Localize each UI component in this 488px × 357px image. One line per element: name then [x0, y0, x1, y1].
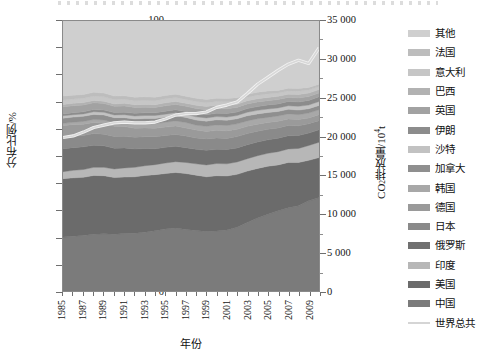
legend-item-label: 美国 [435, 279, 455, 290]
legend-item[interactable]: 德国 [408, 198, 486, 217]
x-axis-tick-mark [320, 292, 321, 296]
legend-item-label: 日本 [435, 221, 455, 232]
legend-item[interactable]: 巴西 [408, 82, 486, 101]
x-axis-tick-mark [114, 292, 115, 296]
x-axis-tick-label: 2007 [284, 300, 294, 320]
y-axis-right-tick-mark [320, 214, 326, 215]
legend-swatch-icon [408, 204, 430, 211]
x-axis-tick-label: 2003 [243, 300, 253, 320]
y-axis-right-tick-mark [320, 137, 326, 138]
y-axis-right-title-subscript: 2 [378, 180, 387, 184]
legend-item-label: 德国 [435, 202, 455, 213]
legend-item[interactable]: 韩国 [408, 178, 486, 197]
legend-item[interactable]: 美国 [408, 275, 486, 294]
legend-item-label: 巴西 [435, 86, 455, 97]
y-axis-right-tick-label: 20 000 [327, 132, 356, 142]
x-axis-title: 年份 [0, 335, 382, 351]
legend-item-label: 世界总共 [435, 318, 475, 329]
y-axis-left-title: 分布比例/% [6, 112, 18, 168]
legend-item-label: 加拿大 [435, 163, 465, 174]
y-axis-right-title-prefix: CO [375, 184, 387, 199]
legend-item[interactable]: 意大利 [408, 63, 486, 82]
x-axis-tick-label: 1987 [78, 300, 88, 320]
y-axis-right-tick-mark [320, 253, 326, 254]
legend-swatch-icon [408, 185, 430, 192]
legend-swatch-icon [408, 281, 430, 288]
x-axis-tick-mark [268, 292, 269, 296]
legend-item[interactable]: 加拿大 [408, 159, 486, 178]
legend-item[interactable]: 日本 [408, 217, 486, 236]
x-axis-tick-mark [93, 292, 94, 296]
legend-item-label: 韩国 [435, 183, 455, 194]
scan-artifact [58, 1, 438, 5]
legend-swatch-icon [408, 69, 430, 76]
x-axis-tick-mark [176, 292, 177, 296]
plot-area [62, 20, 320, 292]
area-band-其他 [63, 21, 319, 100]
legend-item-label: 沙特 [435, 144, 455, 155]
legend-item-label: 印度 [435, 260, 455, 271]
stacked-area-plot [63, 21, 319, 291]
x-axis-tick-mark [299, 292, 300, 296]
x-axis-tick-mark [227, 292, 228, 296]
x-axis-tick-label: 1995 [160, 300, 170, 320]
x-axis-tick-mark [279, 292, 280, 296]
x-axis-tick-mark [72, 292, 73, 296]
legend-item[interactable]: 伊朗 [408, 120, 486, 139]
legend-item[interactable]: 其他 [408, 24, 486, 43]
legend-swatch-icon [408, 127, 430, 134]
x-axis-tick-mark [310, 292, 311, 296]
legend-item[interactable]: 法国 [408, 43, 486, 62]
y-axis-right-title-suffix: t [375, 126, 387, 129]
legend: 其他法国意大利巴西英国伊朗沙特加拿大韩国德国日本俄罗斯印度美国中国世界总共 [408, 24, 486, 333]
y-axis-right-tick-label: 35 000 [327, 15, 356, 25]
x-axis-tick-mark [83, 292, 84, 296]
x-axis-tick-mark [289, 292, 290, 296]
y-axis-right-minor-tick [320, 156, 323, 157]
x-axis-tick-mark [206, 292, 207, 296]
y-axis-right-title-superscript: 4 [373, 129, 382, 133]
y-axis-right-tick-mark [320, 20, 326, 21]
legend-swatch-icon [408, 165, 430, 172]
y-axis-right-tick-mark [320, 59, 326, 60]
x-axis-tick-label: 1993 [140, 300, 150, 320]
y-axis-right-tick-label: 0 [327, 287, 332, 297]
x-axis-tick-label: 2001 [222, 300, 232, 320]
y-axis-right-minor-tick [320, 234, 323, 235]
x-axis-tick-label: 2005 [263, 300, 273, 320]
legend-swatch-icon [408, 88, 430, 95]
x-axis-tick-mark [145, 292, 146, 296]
legend-swatch-icon [408, 242, 430, 249]
x-axis-tick-label: 1985 [57, 300, 67, 320]
y-axis-right-tick-mark [320, 175, 326, 176]
legend-item[interactable]: 印度 [408, 256, 486, 275]
legend-item[interactable]: 世界总共 [408, 313, 486, 332]
legend-item-label: 英国 [435, 105, 455, 116]
x-axis-tick-mark [186, 292, 187, 296]
x-axis-tick-mark [258, 292, 259, 296]
legend-swatch-icon [408, 300, 430, 307]
x-axis-tick-label: 1997 [181, 300, 191, 320]
y-axis-right-tick-label: 25 000 [327, 93, 356, 103]
y-axis-right-tick-label: 10 000 [327, 209, 356, 219]
y-axis-right-minor-tick [320, 39, 323, 40]
legend-item[interactable]: 沙特 [408, 140, 486, 159]
y-axis-right-title-mid: 排放量/10 [375, 133, 387, 180]
legend-item[interactable]: 俄罗斯 [408, 236, 486, 255]
y-axis-right-tick-mark [320, 98, 326, 99]
x-axis-tick-mark [134, 292, 135, 296]
x-axis-tick-label: 1989 [98, 300, 108, 320]
legend-item-label: 中国 [435, 298, 455, 309]
x-axis-tick-mark [62, 292, 63, 296]
legend-item-label: 俄罗斯 [435, 240, 465, 251]
x-axis-tick-mark [237, 292, 238, 296]
x-axis-tick-label: 2009 [305, 300, 315, 320]
legend-item-label: 意大利 [435, 67, 465, 78]
x-axis-tick-label: 1991 [119, 300, 129, 320]
x-axis-tick-mark [155, 292, 156, 296]
legend-item[interactable]: 英国 [408, 101, 486, 120]
x-axis-tick-mark [248, 292, 249, 296]
legend-swatch-icon [408, 30, 430, 37]
x-axis-tick-mark [103, 292, 104, 296]
legend-item[interactable]: 中国 [408, 294, 486, 313]
